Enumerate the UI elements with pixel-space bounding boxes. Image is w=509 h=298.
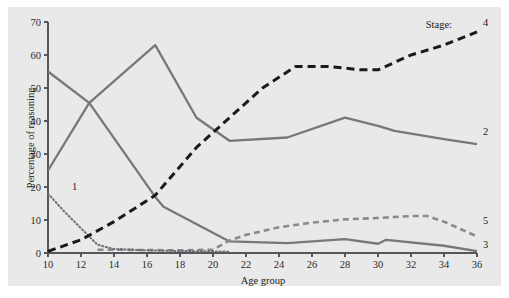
y-axis-title: Percentage of reasoning [25, 87, 36, 189]
x-tick-label: 36 [472, 259, 483, 270]
y-tick-label: 0 [36, 248, 41, 259]
x-tick-label: 32 [406, 259, 417, 270]
legend-title: Stage: [426, 19, 452, 30]
x-tick-label: 20 [208, 259, 219, 270]
x-tick-label: 12 [76, 259, 87, 270]
x-tick-label: 18 [175, 259, 186, 270]
series-layer [48, 32, 477, 252]
series-label-stage-3: 3 [483, 239, 488, 250]
x-tick-label: 16 [142, 259, 153, 270]
y-tick-label: 10 [31, 215, 42, 226]
series-line-stage-5 [98, 216, 478, 250]
series-label-stage-2: 2 [483, 126, 488, 137]
series-label-stage-5: 5 [483, 215, 488, 226]
x-tick-label: 10 [43, 259, 54, 270]
series-label-stage-1: 1 [72, 181, 77, 192]
chart-figure: 0102030405060701012141618202224262830323… [0, 0, 509, 298]
x-tick-label: 26 [307, 259, 318, 270]
x-tick-label: 28 [340, 259, 351, 270]
x-tick-label: 24 [274, 259, 285, 270]
x-axis-title: Age group [241, 275, 286, 286]
y-tick-label: 60 [31, 50, 42, 61]
x-tick-label: 30 [373, 259, 384, 270]
series-line-stage-4 [48, 32, 477, 251]
x-tick-label: 14 [109, 259, 120, 270]
x-tick-label: 22 [241, 259, 252, 270]
line-chart: 0102030405060701012141618202224262830323… [0, 0, 509, 298]
y-tick-label: 70 [31, 17, 42, 28]
x-tick-label: 34 [439, 259, 450, 270]
series-label-stage-4: 4 [483, 17, 489, 28]
series-line-stage-2 [48, 45, 477, 170]
